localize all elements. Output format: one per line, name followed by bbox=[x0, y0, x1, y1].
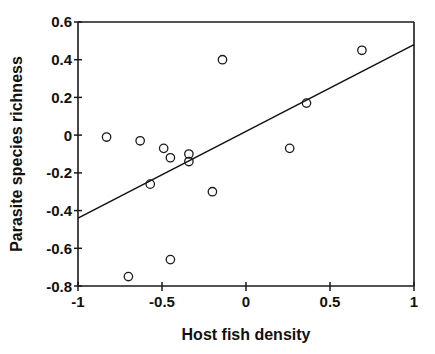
regression-trendline bbox=[78, 45, 414, 218]
x-tick-label: -0.5 bbox=[149, 293, 175, 310]
data-point bbox=[166, 255, 174, 263]
x-tick-label: 0.5 bbox=[320, 293, 341, 310]
x-axis-title: Host fish density bbox=[182, 326, 311, 343]
data-point bbox=[124, 272, 132, 280]
data-point bbox=[358, 46, 366, 54]
y-tick-label: 0.4 bbox=[51, 51, 73, 68]
data-points-layer bbox=[102, 46, 366, 281]
x-tick-labels: -1 -0.5 0 0.5 1 bbox=[71, 293, 418, 310]
plot-canvas: Parasite species richness Host fish dens… bbox=[0, 0, 435, 354]
y-tick-label: 0.6 bbox=[51, 13, 72, 30]
data-point bbox=[208, 188, 216, 196]
data-point bbox=[102, 133, 110, 141]
data-point bbox=[166, 154, 174, 162]
y-tick-label: -0.6 bbox=[46, 240, 72, 257]
y-tick-label: -0.8 bbox=[46, 278, 72, 295]
y-tick-label: 0 bbox=[64, 127, 72, 144]
plot-frame bbox=[78, 22, 414, 286]
y-tick-label: 0.2 bbox=[51, 89, 72, 106]
y-tick-label: -0.4 bbox=[46, 202, 73, 219]
y-axis-title: Parasite species richness bbox=[8, 56, 25, 252]
x-tick-label: -1 bbox=[71, 293, 84, 310]
x-tick-label: 1 bbox=[410, 293, 418, 310]
data-point bbox=[159, 144, 167, 152]
y-tick-labels: 0.6 0.4 0.2 0 -0.2 -0.4 -0.6 -0.8 bbox=[46, 13, 73, 295]
scatter-plot-figure: Parasite species richness Host fish dens… bbox=[0, 0, 435, 354]
data-point bbox=[218, 56, 226, 64]
y-tick-label: -0.2 bbox=[46, 164, 72, 181]
data-point bbox=[136, 137, 144, 145]
x-tick-label: 0 bbox=[242, 293, 250, 310]
data-point bbox=[285, 144, 293, 152]
